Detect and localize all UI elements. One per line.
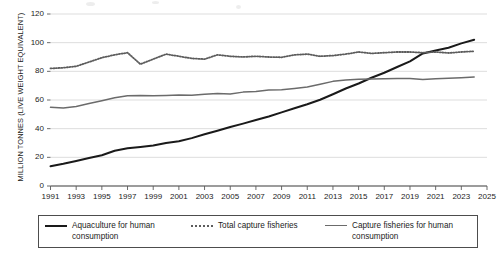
plot-area <box>0 0 504 212</box>
x-axis-tickmarks <box>51 186 488 190</box>
series-line-3 <box>51 77 475 108</box>
scan-artifact <box>152 1 159 4</box>
y-axis-tick-label: 60 <box>18 95 44 104</box>
x-axis-tick-label: 1991 <box>38 192 64 201</box>
chart-legend: Aquaculture for human consumption Total … <box>38 215 478 248</box>
y-axis-tick-label: 20 <box>18 152 44 161</box>
legend-item-label: Aquaculture for human consumption <box>72 221 185 242</box>
x-axis-tick-label: 2011 <box>294 192 320 201</box>
y-axis-tick-label: 40 <box>18 124 44 133</box>
legend-item-aquaculture[interactable]: Aquaculture for human consumption <box>45 221 185 242</box>
x-axis-tick-label: 2007 <box>243 192 269 201</box>
x-axis-tick-label: 2025 <box>474 192 500 201</box>
x-axis-tick-label: 1997 <box>115 192 141 201</box>
y-axis-tick-label: 80 <box>18 66 44 75</box>
legend-item-total-capture[interactable]: Total capture fisheries <box>191 221 321 232</box>
x-axis-tick-label: 2013 <box>320 192 346 201</box>
x-axis-tick-label: 2003 <box>192 192 218 201</box>
series-line-1 <box>51 40 475 166</box>
legend-item-label: Capture fisheries for human consumption <box>352 221 475 242</box>
solid-gray-line-icon <box>325 221 347 231</box>
fisheries-production-chart: MILLION TONNES (LIVE WEIGHT EQUIVALENT) … <box>0 0 504 255</box>
scan-artifact <box>236 5 241 9</box>
gridlines <box>51 14 488 186</box>
legend-item-capture-human[interactable]: Capture fisheries for human consumption <box>325 221 475 242</box>
x-axis-tick-label: 2009 <box>269 192 295 201</box>
x-axis-tick-label: 2019 <box>397 192 423 201</box>
y-axis-tick-label: 120 <box>18 9 44 18</box>
y-axis-tick-label: 100 <box>18 38 44 47</box>
solid-black-line-icon <box>45 221 67 231</box>
y-axis-tickmarks <box>47 14 51 186</box>
legend-item-label: Total capture fisheries <box>218 221 298 232</box>
scan-artifact <box>86 2 95 6</box>
y-axis-tick-label: 0 <box>18 181 44 190</box>
x-axis-tick-label: 2017 <box>371 192 397 201</box>
dotted-line-icon <box>191 221 213 231</box>
x-axis-tick-label: 1999 <box>140 192 166 201</box>
x-axis-tick-label: 2005 <box>217 192 243 201</box>
x-axis-tick-label: 2001 <box>166 192 192 201</box>
x-axis-tick-label: 2015 <box>346 192 372 201</box>
series-lines <box>51 40 475 166</box>
x-axis-tick-label: 1995 <box>89 192 115 201</box>
x-axis-tick-label: 1993 <box>63 192 89 201</box>
x-axis-tick-label: 2021 <box>423 192 449 201</box>
x-axis-tick-label: 2023 <box>448 192 474 201</box>
